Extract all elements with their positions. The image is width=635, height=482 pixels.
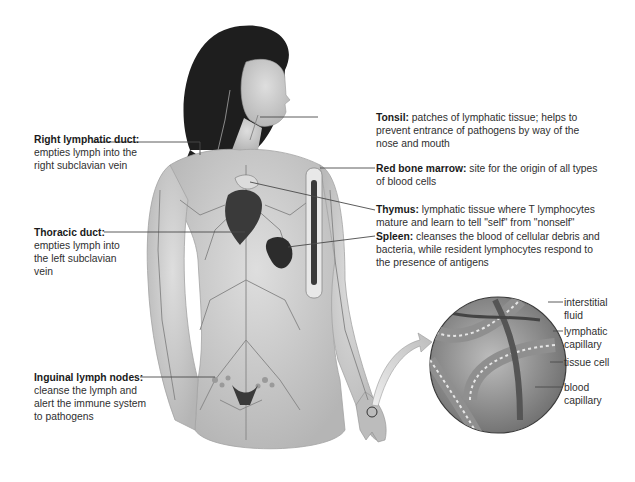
callout-text: mature and learn to tell "self" from "no… — [376, 217, 574, 228]
inset-label-text: capillary — [564, 339, 602, 350]
capillary-inset — [430, 297, 566, 440]
callout-spleen: Spleen: cleanses the blood of cellular d… — [376, 230, 600, 269]
inset-label-blood-capillary: blood capillary — [564, 381, 602, 407]
inset-label-tissue-cell: tissue cell — [564, 356, 609, 369]
callout-text: alert the immune system — [34, 398, 146, 409]
callout-text: cleanse the lymph and — [34, 385, 137, 396]
inset-label-text: lymphatic — [564, 326, 608, 337]
humerus-bone — [306, 168, 322, 298]
callout-text: prevent entrance of pathogens by way of … — [376, 125, 579, 136]
inset-label-text: blood — [564, 382, 589, 393]
callout-term: Thoracic duct: — [34, 227, 105, 238]
callout-text: cleanses the blood of cellular debris an… — [413, 231, 600, 242]
callout-term: Right lymphatic duct: — [34, 134, 139, 145]
callout-thymus: Thymus: lymphatic tissue where T lymphoc… — [376, 203, 595, 229]
callout-text: empties lymph into the — [34, 147, 137, 158]
inset-label-text: interstitial — [564, 297, 608, 308]
callout-text: the left subclavian — [34, 253, 116, 264]
callout-text: of blood cells — [376, 176, 436, 187]
callout-thoracic-duct: Thoracic duct: empties lymph into the le… — [34, 226, 120, 278]
callout-text: to pathogens — [34, 411, 94, 422]
callout-text: empties lymph into — [34, 240, 120, 251]
callout-inguinal-lymph-nodes: Inguinal lymph nodes: cleanse the lymph … — [34, 371, 146, 423]
callout-term: Spleen: — [376, 231, 413, 242]
callout-term: Tonsil: — [376, 112, 409, 123]
inset-label-text: tissue cell — [564, 357, 609, 368]
callout-text: lymphatic tissue where T lymphocytes — [419, 204, 595, 215]
callout-text: vein — [34, 266, 53, 277]
inset-label-text: capillary — [564, 395, 602, 406]
callout-text: the presence of antigens — [376, 257, 489, 268]
inset-label-lymphatic-capillary: lymphatic capillary — [564, 325, 608, 351]
callout-term: Inguinal lymph nodes: — [34, 372, 143, 383]
callout-right-lymphatic-duct: Right lymphatic duct: empties lymph into… — [34, 133, 139, 172]
callout-red-bone-marrow: Red bone marrow: site for the origin of … — [376, 162, 597, 188]
magnify-arrow — [372, 333, 432, 406]
inset-label-text: fluid — [564, 310, 583, 321]
inset-label-interstitial-fluid: interstitial fluid — [564, 296, 608, 322]
callout-text: site for the origin of all types — [466, 163, 597, 174]
torso — [147, 149, 386, 448]
callout-text: bacteria, while resident lymphocytes res… — [376, 244, 593, 255]
callout-term: Thymus: — [376, 204, 419, 215]
callout-text: right subclavian vein — [34, 160, 127, 171]
callout-tonsil: Tonsil: patches of lymphatic tissue; hel… — [376, 111, 579, 150]
callout-text: nose and mouth — [376, 138, 450, 149]
callout-text: patches of lymphatic tissue; helps to — [409, 112, 577, 123]
lymphatic-system-diagram: Right lymphatic duct: empties lymph into… — [0, 0, 635, 482]
callout-term: Red bone marrow: — [376, 163, 466, 174]
